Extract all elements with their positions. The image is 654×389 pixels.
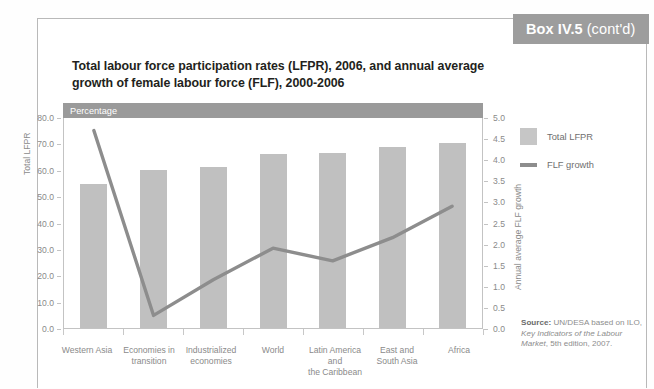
y-axis-left-tick-mark — [57, 250, 61, 251]
y-axis-right-tick-mark — [484, 118, 488, 119]
x-axis-category-label: World — [242, 345, 304, 378]
source-note: Source: UN/DESA based on ILO, Key Indica… — [521, 318, 645, 350]
chart-title: Total labour force participation rates (… — [72, 58, 492, 91]
y-axis-left-tick-label: 30.0 — [37, 245, 54, 255]
x-axis-category-label: Economies in transition — [118, 345, 180, 378]
y-axis-right-tick-label: 0.0 — [493, 324, 505, 334]
y-axis-left-tick-mark — [57, 303, 61, 304]
x-axis-category-label: Western Asia — [56, 345, 118, 378]
y-axis-right-tick-mark — [484, 160, 488, 161]
legend-item: Total LFPR — [520, 128, 640, 145]
y-axis-left-tick-label: 20.0 — [37, 271, 54, 281]
legend-item: FLF growth — [520, 160, 640, 170]
y-axis-left-tick-mark — [57, 171, 61, 172]
y-axis-right-tick-label: 4.0 — [493, 155, 505, 165]
box-header-contd: (cont'd) — [587, 21, 636, 37]
x-axis-labels: Western AsiaEconomies in transitionIndus… — [56, 345, 490, 378]
x-axis-tick-mark — [123, 329, 124, 335]
y-axis-left-ticks: 0.010.020.030.040.050.060.070.080.0 — [0, 118, 58, 329]
source-text-2: , 5th edition, 2007. — [546, 339, 613, 348]
plot-wrapper: Percentage — [63, 103, 483, 329]
x-axis-category-label: Industrialized economies — [180, 345, 242, 378]
x-axis-tick-mark — [243, 329, 244, 335]
chart-legend: Total LFPRFLF growth — [520, 128, 640, 185]
y-axis-right-tick-label: 3.5 — [493, 176, 505, 186]
x-axis-category-label: Africa — [428, 345, 490, 378]
legend-line-icon — [520, 163, 537, 167]
box-header-tab: Box IV.5 (cont'd) — [513, 14, 649, 44]
legend-swatch-icon — [520, 128, 537, 145]
y-axis-left-tick-mark — [57, 118, 61, 119]
x-axis-ticks — [63, 329, 483, 337]
y-axis-right-tick-mark — [484, 139, 488, 140]
y-axis-left-tick-label: 50.0 — [37, 192, 54, 202]
y-axis-right-tick-label: 1.5 — [493, 261, 505, 271]
percentage-band: Percentage — [63, 103, 483, 118]
y-axis-right-tick-mark — [484, 287, 488, 288]
y-axis-right-tick-mark — [484, 181, 488, 182]
y-axis-left-tick-label: 40.0 — [37, 219, 54, 229]
y-axis-left-tick-label: 70.0 — [37, 139, 54, 149]
x-axis-tick-mark — [63, 329, 64, 335]
y-axis-right-tick-mark — [484, 266, 488, 267]
x-axis-tick-mark — [483, 329, 484, 335]
y-axis-left-tick-mark — [57, 329, 61, 330]
y-axis-left-tick-mark — [57, 197, 61, 198]
y-axis-right-tick-mark — [484, 245, 488, 246]
y-axis-right-tick-mark — [484, 308, 488, 309]
x-axis-tick-mark — [303, 329, 304, 335]
box-header-label: Box IV.5 — [526, 21, 583, 37]
legend-label: FLF growth — [547, 160, 594, 170]
x-axis-category-label: East and South Asia — [366, 345, 428, 378]
y-axis-right-tick-label: 1.0 — [493, 282, 505, 292]
source-prefix: Source: — [521, 318, 551, 327]
y-axis-left-tick-label: 60.0 — [37, 166, 54, 176]
x-axis-tick-mark — [363, 329, 364, 335]
flf-growth-line-series — [64, 118, 482, 328]
y-axis-right-tick-label: 2.5 — [493, 219, 505, 229]
y-axis-right-tick-mark — [484, 202, 488, 203]
y-axis-right-tick-label: 5.0 — [493, 113, 505, 123]
y-axis-left-tick-mark — [57, 144, 61, 145]
y-axis-left-tick-label: 80.0 — [37, 113, 54, 123]
y-axis-left-tick-mark — [57, 276, 61, 277]
y-axis-right-tick-label: 0.5 — [493, 303, 505, 313]
y-axis-right-tick-mark — [484, 224, 488, 225]
source-text-1: UN/DESA based on ILO, — [551, 318, 642, 327]
y-axis-right-tick-label: 2.0 — [493, 240, 505, 250]
y-axis-right-tick-mark — [484, 329, 488, 330]
x-axis-category-label: Latin America and the Caribbean — [304, 345, 366, 378]
x-axis-tick-mark — [183, 329, 184, 335]
page-canvas: Box IV.5 (cont'd) Total labour force par… — [0, 0, 654, 389]
y-axis-right-tick-label: 3.0 — [493, 197, 505, 207]
y-axis-left-tick-label: 0.0 — [42, 324, 54, 334]
legend-label: Total LFPR — [547, 132, 593, 142]
plot-area — [63, 118, 483, 329]
y-axis-left-tick-label: 10.0 — [37, 298, 54, 308]
x-axis-tick-mark — [423, 329, 424, 335]
y-axis-right-tick-label: 4.5 — [493, 134, 505, 144]
y-axis-left-tick-mark — [57, 224, 61, 225]
